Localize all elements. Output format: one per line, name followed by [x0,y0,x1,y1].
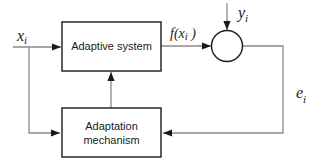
adaptation-mechanism-label-line2: mechanism [83,134,139,146]
adaptation-mechanism-block: Adaptation mechanism [62,108,161,157]
summing-node [212,31,243,62]
desired-signal-label: yi [236,4,248,24]
block-diagram: Adaptive system Adaptation mechanism xi … [0,0,326,164]
input-to-adaptation-mechanism-connector [29,47,60,133]
adaptation-mechanism-label-line1: Adaptation [85,120,138,132]
error-signal-label: ei [296,84,306,105]
output-signal-label: f(xi ) [170,26,196,42]
input-signal-label: xi [16,27,27,46]
adaptive-system-label: Adaptive system [71,40,152,52]
adaptive-system-block: Adaptive system [62,22,161,71]
